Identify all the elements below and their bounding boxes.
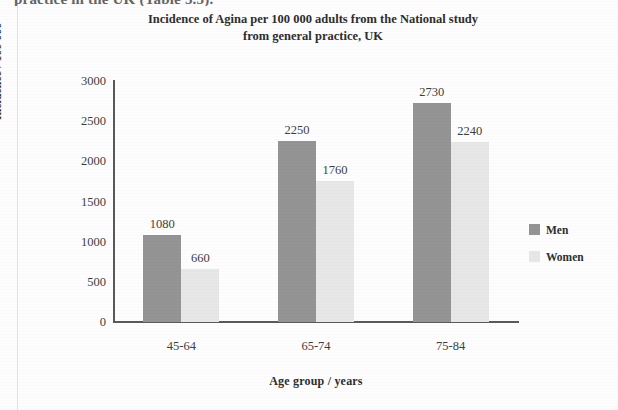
bar-women-65-74[interactable]: 1760 [316, 181, 354, 322]
legend-label: Women [546, 251, 584, 263]
bar-value-label: 2730 [419, 85, 444, 100]
bar-group-45-64: 108066045-64 [114, 81, 249, 322]
y-axis-tick-2500: 2500 [81, 114, 106, 129]
bar-value-label: 1760 [322, 163, 347, 178]
legend-swatch-women-icon [529, 251, 540, 262]
x-axis-tick-45-64: 45-64 [167, 339, 196, 354]
y-axis-tick-1500: 1500 [81, 194, 106, 209]
scan-edge-line [17, 0, 18, 410]
y-axis-tick-0: 0 [100, 315, 106, 330]
bar-value-label: 2250 [284, 123, 309, 138]
x-axis-tick-65-74: 65-74 [301, 339, 330, 354]
legend-item-men[interactable]: Men [529, 216, 613, 243]
bar-women-75-84[interactable]: 2240 [451, 142, 489, 322]
scanned-page: practice in the UK (Table 5.3). Incidenc… [0, 0, 618, 410]
bar-men-45-64[interactable]: 1080 [143, 235, 181, 322]
chart-legend: MenWomen [529, 216, 613, 270]
bar-men-65-74[interactable]: 2250 [278, 141, 316, 322]
chart-title-line-2: from general practice, UK [78, 28, 548, 45]
bar-value-label: 1080 [150, 217, 175, 232]
x-axis-title: Age group / years [114, 374, 518, 389]
bar-value-label: 660 [191, 251, 210, 266]
legend-item-women[interactable]: Women [529, 243, 613, 270]
plot-area: 050010001500200025003000 108066045-64225… [114, 81, 518, 322]
cropped-body-text: practice in the UK (Table 5.3). [14, 0, 574, 6]
y-axis-tick-500: 500 [87, 274, 106, 289]
y-axis-title: Incidence / 100 000 [0, 0, 3, 120]
chart-title: Incidence of Agina per 100 000 adults fr… [78, 11, 548, 45]
bar-group-65-74: 2250176065-74 [249, 81, 384, 322]
y-axis-tick-3000: 3000 [81, 74, 106, 89]
chart-title-line-1: Incidence of Agina per 100 000 adults fr… [78, 11, 548, 28]
legend-swatch-men-icon [529, 224, 540, 235]
bar-men-75-84[interactable]: 2730 [413, 103, 451, 322]
bar-group-75-84: 2730224075-84 [383, 81, 518, 322]
bar-women-45-64[interactable]: 660 [181, 269, 219, 322]
legend-label: Men [546, 224, 568, 236]
bar-value-label: 2240 [457, 124, 482, 139]
y-axis-tick-2000: 2000 [81, 154, 106, 169]
y-axis-tick-1000: 1000 [81, 234, 106, 249]
x-axis-tick-75-84: 75-84 [436, 339, 465, 354]
